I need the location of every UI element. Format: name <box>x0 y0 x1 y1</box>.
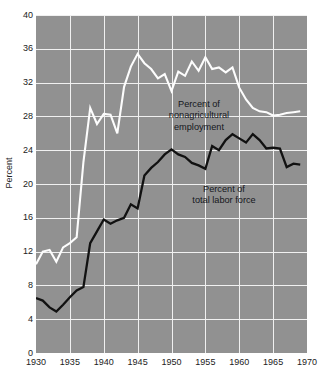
y-axis-tick-28: 28 <box>7 112 33 121</box>
y-axis-tick-40: 40 <box>7 11 33 20</box>
annotation-line: employment <box>144 122 254 133</box>
chart-container: Percent of nonagricultural employment Pe… <box>0 0 318 383</box>
annotation-line: nonagricultural <box>144 110 254 121</box>
y-axis-tick-4: 4 <box>7 315 33 324</box>
annotation-line: Percent of <box>144 99 254 110</box>
plot-area: Percent of nonagricultural employment Pe… <box>36 15 307 353</box>
y-axis-tick-8: 8 <box>7 281 33 290</box>
annotation-nonagricultural-employment: Percent of nonagricultural employment <box>144 99 254 133</box>
annotation-total-labor-force: Percent of total labor force <box>166 184 282 207</box>
y-axis-title: Percent <box>4 145 14 201</box>
line-series-total-labor-force <box>36 134 300 311</box>
y-axis-tick-16: 16 <box>7 213 33 222</box>
annotation-line: total labor force <box>166 195 282 206</box>
annotation-line: Percent of <box>166 184 282 195</box>
y-axis-tick-32: 32 <box>7 78 33 87</box>
x-axis-tick-1970: 1970 <box>287 357 318 367</box>
y-axis-tick-12: 12 <box>7 247 33 256</box>
line-series-nonagricultural <box>36 54 300 264</box>
y-axis-tick-36: 36 <box>7 44 33 53</box>
